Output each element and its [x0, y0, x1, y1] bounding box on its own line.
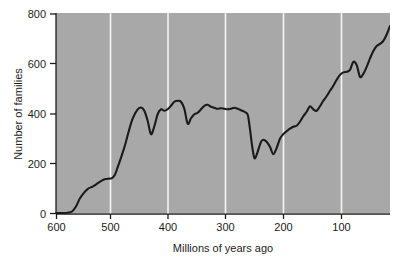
x-tick-label-200: 200: [274, 221, 292, 233]
x-tick-label-600: 600: [47, 221, 65, 233]
x-tick-label-500: 500: [101, 221, 119, 233]
right-margin-mask: [390, 0, 398, 267]
x-tick-label-400: 400: [159, 221, 177, 233]
plot-background: [56, 13, 390, 214]
y-tick-label-600: 600: [28, 58, 46, 70]
y-axis-title: Number of families: [12, 68, 24, 160]
y-axis-ticks: [50, 14, 56, 214]
diversity-line-chart: 800 600 400 200 0 600 500 400 300 200 10…: [0, 0, 398, 267]
y-tick-label-800: 800: [28, 8, 46, 20]
y-tick-label-0: 0: [40, 208, 46, 220]
y-tick-label-200: 200: [28, 158, 46, 170]
x-tick-label-300: 300: [216, 221, 234, 233]
x-tick-label-100: 100: [332, 221, 350, 233]
x-axis-title: Millions of years ago: [173, 242, 273, 254]
y-tick-label-400: 400: [28, 108, 46, 120]
chart-figure: 800 600 400 200 0 600 500 400 300 200 10…: [0, 0, 398, 267]
